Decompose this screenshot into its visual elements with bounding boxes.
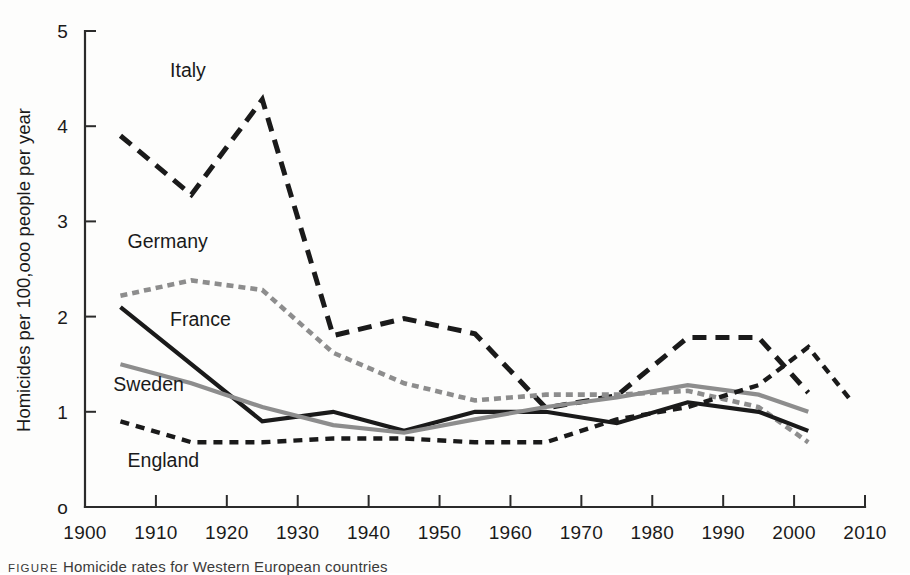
series-label-germany: Germany bbox=[128, 230, 208, 252]
x-tick-label: 1900 bbox=[63, 522, 106, 543]
x-tick-label: 1990 bbox=[701, 522, 744, 543]
series-label-france: France bbox=[170, 308, 231, 330]
homicide-rate-line-chart: Homicides per 100,ooo people per year o1… bbox=[0, 0, 910, 548]
x-axis-ticks: 1900191019201930194019501960197019801990… bbox=[63, 495, 886, 543]
figure-caption-body: Homicide rates for Western European coun… bbox=[63, 558, 388, 575]
y-axis-title-group: Homicides per 100,ooo people per year bbox=[13, 108, 34, 432]
x-tick-label: 1970 bbox=[560, 522, 603, 543]
series-inline-labels: ItalyGermanyFranceSwedenEngland bbox=[113, 59, 230, 471]
y-tick-label: 3 bbox=[57, 211, 68, 232]
figure-caption: FIGURE Homicide rates for Western Europe… bbox=[8, 558, 388, 575]
series-line-italy bbox=[120, 100, 808, 408]
series-label-sweden: Sweden bbox=[113, 373, 183, 395]
x-tick-label: 1980 bbox=[631, 522, 674, 543]
y-tick-label: 5 bbox=[57, 21, 68, 42]
x-tick-label: 1960 bbox=[489, 522, 532, 543]
y-axis-ticks: o12345 bbox=[57, 21, 96, 518]
x-tick-label: 2000 bbox=[772, 522, 815, 543]
y-tick-label: 4 bbox=[57, 116, 68, 137]
x-tick-label: 1910 bbox=[134, 522, 177, 543]
y-tick-label: 1 bbox=[57, 402, 68, 423]
series-line-germany bbox=[120, 280, 808, 442]
y-tick-label: o bbox=[57, 497, 68, 518]
y-tick-label: 2 bbox=[57, 307, 68, 328]
series-label-italy: Italy bbox=[170, 59, 206, 81]
series-label-england: England bbox=[128, 449, 200, 471]
x-tick-label: 1920 bbox=[205, 522, 248, 543]
x-tick-label: 2010 bbox=[843, 522, 886, 543]
figure-caption-tag: FIGURE bbox=[8, 562, 59, 574]
series-lines bbox=[120, 100, 850, 443]
x-tick-label: 1930 bbox=[276, 522, 319, 543]
x-tick-label: 1950 bbox=[418, 522, 461, 543]
y-axis-title: Homicides per 100,ooo people per year bbox=[13, 108, 34, 432]
x-tick-label: 1940 bbox=[347, 522, 390, 543]
